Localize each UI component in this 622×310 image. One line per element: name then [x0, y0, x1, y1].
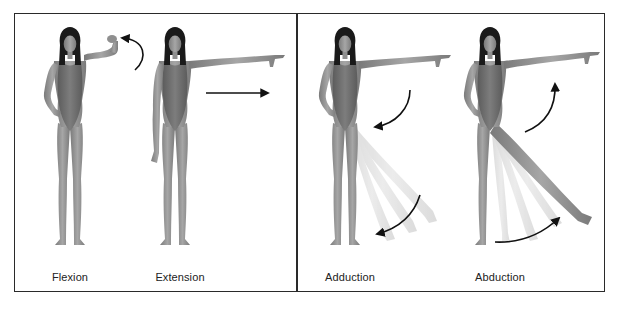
figure-extension: [151, 27, 285, 245]
movement-diagram: Flexion Extension Adduction Abduction: [0, 0, 622, 310]
abduction-arm-arrow-icon: [525, 84, 555, 132]
label-flexion: Flexion: [52, 271, 88, 283]
figure-abduction: [464, 27, 600, 245]
label-extension: Extension: [155, 271, 204, 283]
flexion-arrow-icon: [122, 38, 143, 70]
label-abduction: Abduction: [475, 271, 525, 283]
figure-adduction: [319, 27, 451, 245]
label-adduction: Adduction: [325, 271, 375, 283]
figure-flexion: [44, 27, 118, 245]
figures-illustration: [0, 0, 622, 310]
adduction-arm-arrow-icon: [375, 90, 410, 127]
